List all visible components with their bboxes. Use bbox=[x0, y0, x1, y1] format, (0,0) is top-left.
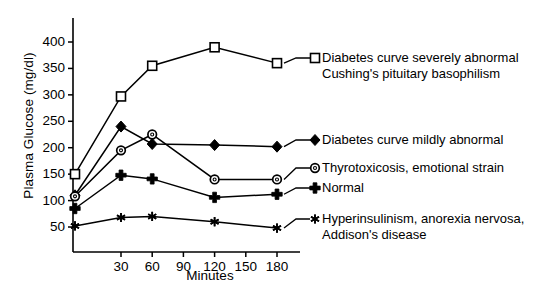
legend-label-line1: Normal bbox=[322, 180, 364, 196]
legend-leader-lines bbox=[284, 54, 320, 229]
legend-label-line1: Hyperinsulinism, anorexia nervosa, bbox=[322, 211, 524, 227]
y-tick-label: 100 bbox=[31, 193, 65, 208]
y-tick-label: 300 bbox=[31, 87, 65, 102]
legend-entry: Diabetes curve severely abnormalCushing'… bbox=[322, 50, 519, 81]
chart-series-group bbox=[70, 43, 282, 233]
legend-label-line1: Thyrotoxicosis, emotional strain bbox=[322, 160, 504, 176]
legend-entry: Thyrotoxicosis, emotional strain bbox=[322, 160, 504, 176]
legend-entry: Diabetes curve mildly abnormal bbox=[322, 132, 503, 148]
legend-entry: Normal bbox=[322, 180, 364, 196]
x-tick-label: 180 bbox=[257, 259, 297, 274]
y-tick-label: 150 bbox=[31, 166, 65, 181]
legend-marker-0 bbox=[311, 54, 320, 63]
legend-marker-3 bbox=[310, 183, 320, 193]
legend-label-line2: Addison's disease bbox=[322, 227, 524, 243]
y-tick-label: 250 bbox=[31, 113, 65, 128]
series-0 bbox=[71, 43, 282, 179]
legend-label-line1: Diabetes curve severely abnormal bbox=[322, 50, 519, 66]
legend-marker-4 bbox=[311, 214, 319, 223]
legend-marker-2 bbox=[311, 164, 320, 173]
legend-label-line2: Cushing's pituitary basophilism bbox=[322, 66, 519, 82]
series-2 bbox=[71, 130, 282, 200]
series-4 bbox=[71, 212, 281, 233]
glucose-tolerance-chart: Plasma Glucose (mg/dl) Minutes 400350300… bbox=[0, 0, 542, 293]
y-tick-label: 400 bbox=[31, 34, 65, 49]
y-tick-label: 200 bbox=[31, 140, 65, 155]
legend-marker-1 bbox=[310, 135, 320, 146]
y-tick-label: 50 bbox=[31, 219, 65, 234]
y-tick-label: 350 bbox=[31, 60, 65, 75]
series-3 bbox=[70, 170, 282, 214]
legend-label-line1: Diabetes curve mildly abnormal bbox=[322, 132, 503, 148]
legend-entry: Hyperinsulinism, anorexia nervosa,Addiso… bbox=[322, 211, 524, 242]
